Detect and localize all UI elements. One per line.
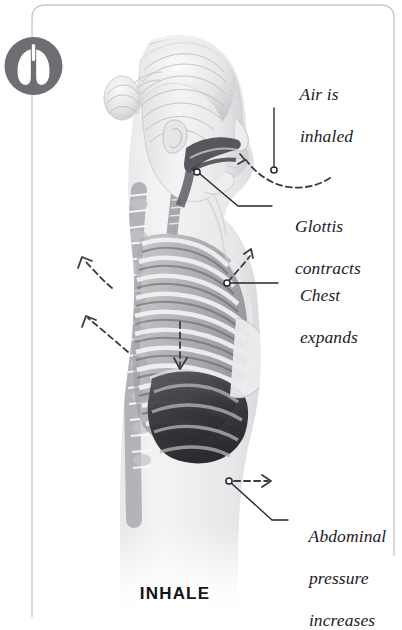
annotation-air-inhaled: Air is inhaled xyxy=(282,63,353,168)
annotation-air-inhaled-line2: inhaled xyxy=(300,126,353,146)
annotation-abdominal-line1: Abdominal xyxy=(309,526,387,546)
annotation-air-inhaled-line1: Air is xyxy=(300,84,339,104)
annotation-chest-line1: Chest xyxy=(300,285,340,305)
annotation-chest-expands: Chest expands xyxy=(282,264,358,369)
marker-abdominal xyxy=(226,478,232,484)
annotation-glottis-line1: Glottis xyxy=(295,216,343,236)
lungs-icon[interactable] xyxy=(4,29,63,102)
phase-caption: INHALE xyxy=(0,584,350,604)
leader-glottis xyxy=(200,174,272,206)
annotation-chest-line2: expands xyxy=(300,327,358,347)
annotation-abdominal-pressure-increases: Abdominal pressure increases xyxy=(291,505,386,630)
marker-air-inhaled xyxy=(271,167,277,173)
leader-abdominal xyxy=(230,482,288,520)
marker-chest xyxy=(224,280,230,286)
marker-glottis xyxy=(194,169,200,175)
annotation-abdominal-line3: increases xyxy=(309,610,375,630)
